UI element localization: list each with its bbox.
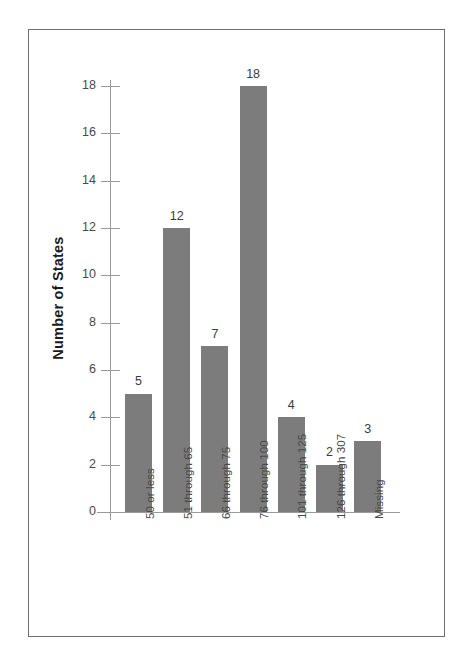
y-axis-tick-label: 8 [18,316,96,329]
x-axis-category-label: 66 through 75 [220,447,232,519]
y-axis-tick [101,275,120,276]
bar-value-label: 4 [265,399,318,412]
y-axis-tick-label: 6 [18,363,96,376]
y-axis-tick-label: 10 [18,268,96,281]
y-axis-tick [101,323,120,324]
figure-canvas: Number of States 024681012141618 5127184… [0,0,475,664]
y-axis-tick [101,133,120,134]
y-axis-tick [101,181,120,182]
y-axis-tick [101,86,120,87]
y-axis-title: Number of States [50,218,66,378]
y-axis-tick [101,417,120,418]
y-axis-tick [101,465,120,466]
y-axis-tick-label: 18 [18,79,96,92]
y-axis-tick-label: 12 [18,221,96,234]
x-axis-category-label: 76 through 100 [258,440,270,519]
bar-value-label: 3 [341,423,394,436]
bar-value-label: 18 [227,68,280,81]
y-axis-tick-label: 4 [18,410,96,423]
x-axis-line [97,512,400,513]
bar-value-label: 2 [303,446,356,459]
x-axis-category-label: 101 through 125 [296,434,308,519]
y-axis-tick [101,228,120,229]
x-axis-category-label: 51 through 65 [182,447,194,519]
y-axis-tick [101,370,120,371]
y-axis-tick-label: 2 [18,458,96,471]
plot-area: Number of States 024681012141618 5127184… [0,0,475,664]
x-axis-category-label: 126 through 307 [335,434,347,519]
bar-value-label: 12 [150,210,203,223]
bar-value-label: 5 [112,375,165,388]
y-axis-tick-label: 16 [18,126,96,139]
bar-value-label: 7 [188,328,241,341]
y-axis-tick-label: 0 [18,505,96,518]
x-axis-category-label: Missing [373,479,385,519]
x-axis-category-label: 50 or less [144,468,156,519]
y-axis-tick [101,512,120,513]
y-axis-tick-label: 14 [18,174,96,187]
y-axis-line [110,80,111,520]
